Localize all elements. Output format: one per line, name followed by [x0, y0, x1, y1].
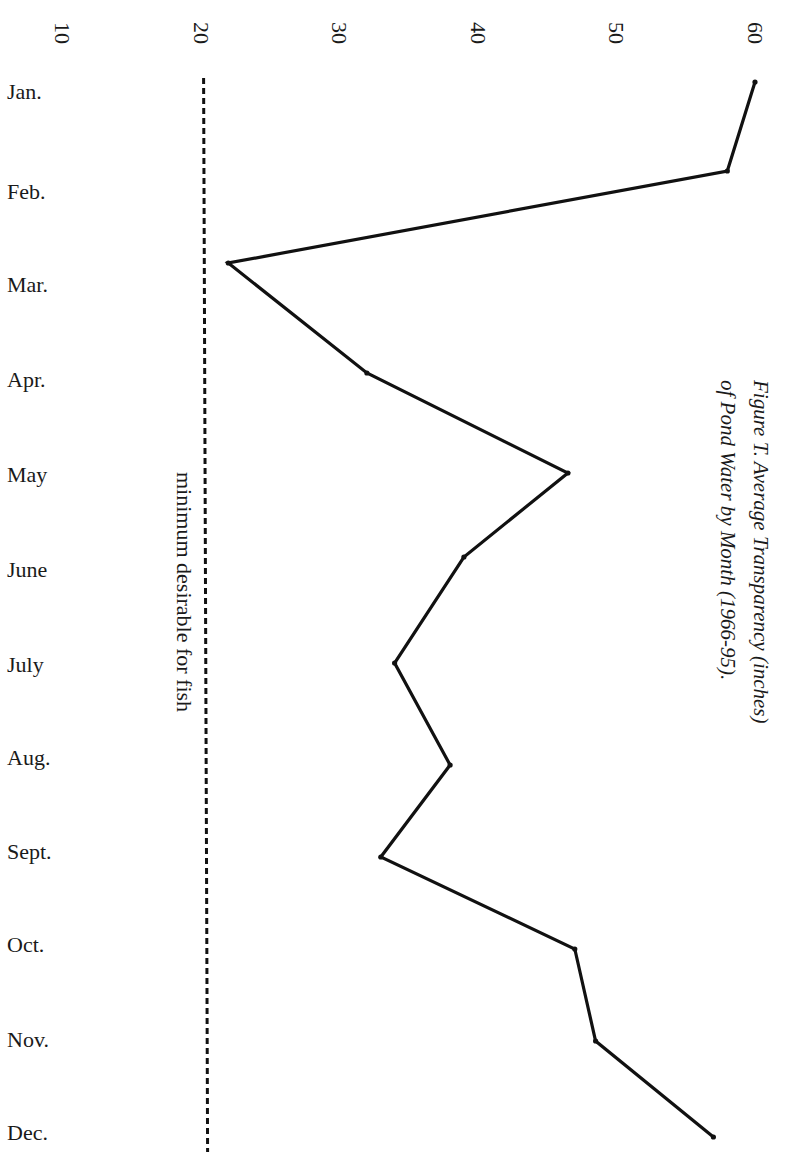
- data-point: [378, 854, 383, 859]
- chart-plot-area: [0, 0, 793, 1165]
- caption-line-2: of Pond Water by Month (1966-95).: [711, 380, 744, 724]
- month-label-jan: Jan.: [7, 80, 42, 104]
- tick-label-60: 60: [744, 22, 766, 44]
- tick-label-20: 20: [190, 22, 212, 44]
- reference-line-label: minimum desirable for fish: [172, 472, 197, 712]
- tick-label-10: 10: [51, 22, 73, 44]
- data-point: [725, 168, 730, 173]
- data-point: [364, 370, 369, 375]
- data-point: [392, 660, 397, 665]
- tick-label-50: 50: [605, 22, 627, 44]
- data-point: [448, 762, 453, 767]
- data-point: [226, 260, 231, 265]
- data-point: [572, 946, 577, 951]
- data-point: [593, 1038, 598, 1043]
- month-label-nov: Nov.: [7, 1028, 49, 1052]
- month-label-apr: Apr.: [7, 368, 46, 392]
- transparency-data-line: [228, 82, 755, 1137]
- month-label-oct: Oct.: [7, 933, 44, 957]
- data-point: [461, 554, 466, 559]
- month-label-feb: Feb.: [7, 180, 46, 204]
- month-label-mar: Mar.: [7, 273, 48, 297]
- caption-line-1: Figure T. Average Transparency (inches): [744, 380, 777, 724]
- month-label-aug: Aug.: [7, 746, 50, 770]
- month-label-may: May: [7, 463, 47, 487]
- month-label-sept: Sept.: [7, 840, 52, 864]
- tick-label-40: 40: [467, 22, 489, 44]
- tick-label-30: 30: [328, 22, 350, 44]
- month-label-dec: Dec.: [7, 1121, 48, 1145]
- figure-caption: Figure T. Average Transparency (inches) …: [711, 380, 777, 724]
- data-point: [711, 1134, 716, 1139]
- month-label-june: June: [7, 558, 47, 582]
- minimum-desirable-reference-line: [204, 78, 208, 1152]
- reference-line-label-container: minimum desirable for fish: [172, 472, 196, 712]
- month-label-july: July: [7, 653, 44, 677]
- data-point: [565, 470, 570, 475]
- data-point-markers: [226, 79, 758, 1139]
- data-point: [752, 79, 757, 84]
